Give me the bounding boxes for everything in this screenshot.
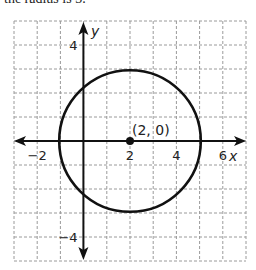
x-tick-label: 6 (219, 148, 227, 163)
x-tick-label: −2 (28, 148, 47, 163)
center-point (126, 137, 134, 145)
y-tick-label: 4 (69, 38, 77, 53)
coordinate-graph: (2, 0) −2246 4−4 x y (0, 0, 256, 270)
y-axis-label: y (90, 23, 100, 39)
center-point-label: (2, 0) (132, 122, 170, 138)
x-axis-label: x (228, 148, 238, 164)
y-tick-label: −4 (58, 230, 77, 245)
x-tick-label: 2 (126, 148, 134, 163)
x-tick-label: 4 (172, 148, 180, 163)
